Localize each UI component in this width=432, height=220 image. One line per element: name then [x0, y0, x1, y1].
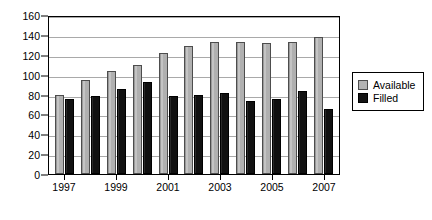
bar-group — [181, 17, 207, 174]
y-tick-mark — [41, 155, 48, 156]
x-tick-slot — [51, 175, 77, 180]
bar-filled-2005 — [272, 99, 281, 174]
x-tick-label — [181, 182, 207, 193]
y-tick-mark — [41, 16, 48, 17]
x-tick-slot — [311, 175, 337, 180]
bar-group — [129, 17, 155, 174]
bar-available-2000 — [133, 65, 142, 174]
x-tick-label: 2007 — [311, 182, 337, 193]
y-tick-label: 160 — [22, 11, 40, 22]
x-tick-mark — [64, 175, 65, 180]
y-tick-mark — [41, 55, 48, 56]
x-tick-label: 1997 — [51, 182, 77, 193]
x-tick-mark — [116, 175, 117, 180]
x-tick-label: 2005 — [259, 182, 285, 193]
x-tick-slot — [207, 175, 233, 180]
y-tick-mark — [41, 75, 48, 76]
x-tick-slot — [77, 175, 103, 180]
bar-group — [259, 17, 285, 174]
bar-filled-2002 — [194, 95, 203, 174]
legend-label: Filled — [373, 93, 398, 104]
legend-item-filled[interactable]: Filled — [358, 93, 419, 104]
x-tick-slot — [103, 175, 129, 180]
x-tick-mark — [272, 175, 273, 180]
bar-available-1997 — [55, 95, 64, 174]
x-tick-mark — [168, 175, 169, 180]
y-tick-mark — [41, 135, 48, 136]
x-tick-slot — [155, 175, 181, 180]
x-tick-label: 2003 — [207, 182, 233, 193]
bar-available-1998 — [81, 80, 90, 174]
bar-available-2006 — [288, 42, 297, 174]
x-tick-label: 1999 — [103, 182, 129, 193]
y-tick-label: 40 — [28, 130, 40, 141]
bar-available-2003 — [210, 42, 219, 174]
x-tick-mark — [324, 175, 325, 180]
y-tick-label: 60 — [28, 110, 40, 121]
bar-group — [52, 17, 78, 174]
y-tick-mark — [41, 175, 48, 176]
bar-available-2001 — [159, 53, 168, 174]
x-tick-slot — [259, 175, 285, 180]
y-tick-mark — [41, 35, 48, 36]
legend-item-available[interactable]: Available — [358, 80, 419, 91]
y-tick-mark — [41, 115, 48, 116]
bar-available-2005 — [262, 43, 271, 174]
x-tick-marks — [48, 175, 340, 180]
bar-available-2004 — [236, 42, 245, 174]
bar-filled-1998 — [91, 96, 100, 175]
legend-label: Available — [373, 80, 415, 91]
y-tick-label: 80 — [28, 90, 40, 101]
bar-group — [207, 17, 233, 174]
chart-legend: AvailableFilled — [352, 72, 424, 111]
bar-groups — [49, 17, 339, 174]
y-tick-label: 140 — [22, 31, 40, 42]
bar-filled-2007 — [324, 109, 333, 174]
bar-filled-2006 — [298, 91, 307, 174]
bar-filled-1997 — [65, 99, 74, 174]
bar-group — [78, 17, 104, 174]
y-axis: 020406080100120140160 — [0, 16, 48, 175]
bar-filled-1999 — [117, 89, 126, 174]
x-tick-labels: 199719992001200320052007 — [48, 182, 340, 193]
x-axis: 199719992001200320052007 — [48, 175, 340, 205]
x-tick-slot — [285, 175, 311, 180]
bar-available-2007 — [314, 37, 323, 174]
bar-filled-2004 — [246, 101, 255, 174]
x-tick-label — [77, 182, 103, 193]
bar-group — [310, 17, 336, 174]
bar-group — [155, 17, 181, 174]
x-tick-slot — [233, 175, 259, 180]
x-tick-slot — [129, 175, 155, 180]
x-tick-slot — [181, 175, 207, 180]
bar-group — [104, 17, 130, 174]
y-tick-label: 100 — [22, 70, 40, 81]
x-tick-label — [233, 182, 259, 193]
bar-chart-figure: 020406080100120140160 199719992001200320… — [0, 0, 432, 220]
bar-available-2002 — [184, 46, 193, 174]
y-tick-label: 120 — [22, 51, 40, 62]
y-tick-mark — [41, 95, 48, 96]
bar-group — [233, 17, 259, 174]
bar-group — [284, 17, 310, 174]
bar-filled-2001 — [169, 96, 178, 174]
bar-available-1999 — [107, 71, 116, 174]
bar-filled-2000 — [143, 82, 152, 174]
bar-filled-2003 — [220, 93, 229, 174]
x-tick-label: 2001 — [155, 182, 181, 193]
x-tick-mark — [220, 175, 221, 180]
x-tick-label — [129, 182, 155, 193]
y-tick-label: 0 — [34, 170, 40, 181]
y-tick-label: 20 — [28, 150, 40, 161]
legend-swatch-available-icon — [358, 80, 368, 90]
plot-area — [48, 16, 340, 175]
legend-swatch-filled-icon — [358, 93, 368, 103]
x-tick-label — [285, 182, 311, 193]
